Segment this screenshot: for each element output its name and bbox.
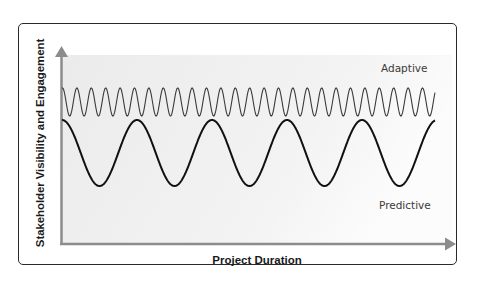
x-axis-label: Project Duration (212, 254, 301, 266)
adaptive-label: Adaptive (381, 62, 427, 74)
y-axis-arrow-icon (55, 46, 68, 57)
y-axis-label: Stakeholder Visibility and Engagement (34, 39, 46, 247)
predictive-label: Predictive (379, 199, 431, 211)
